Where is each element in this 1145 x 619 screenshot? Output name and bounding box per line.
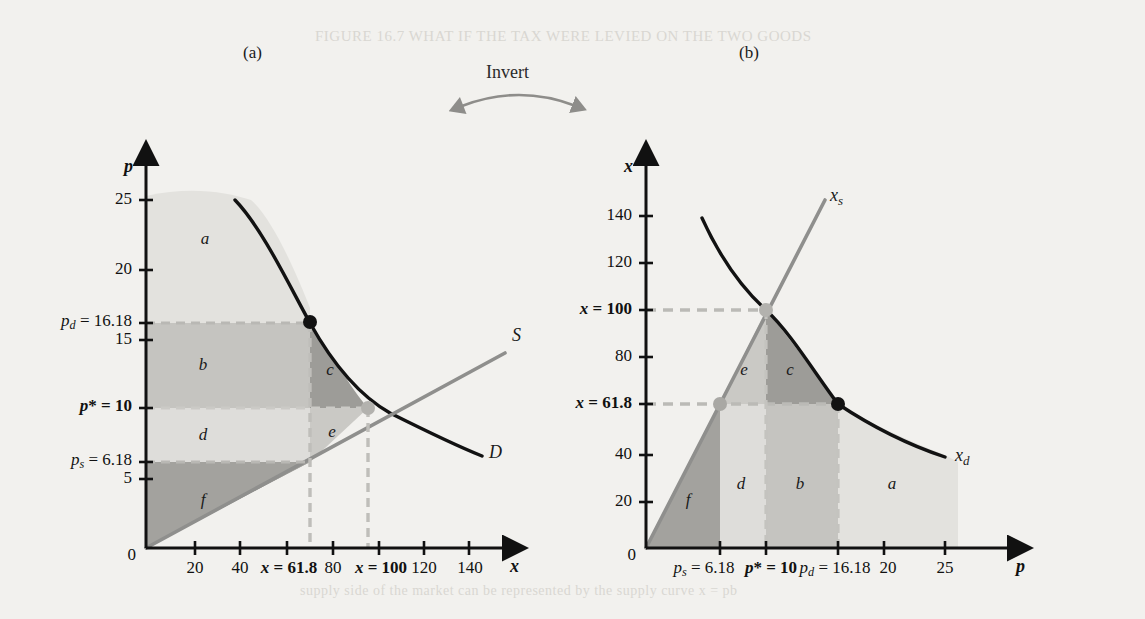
equilibrium-point-a: [361, 401, 375, 415]
demand-point-b: [831, 397, 845, 411]
panel-a-region-c-label: c: [326, 360, 334, 380]
panel-a-xtick-40: 40: [232, 558, 249, 578]
panel-b-xtick-ps: ps = 6.18: [673, 558, 734, 580]
panel-a-region-b-label: b: [199, 355, 208, 375]
panel-a-x-axis-label: x: [510, 556, 519, 577]
panel-b-ytick-0: 0: [628, 545, 637, 565]
panel-b-region-c-label: c: [786, 360, 794, 380]
panel-a-xtick-20: 20: [187, 558, 204, 578]
panel-a-region-a-label: a: [201, 229, 210, 249]
panel-b-ytick-120: 120: [607, 252, 633, 272]
demand-point-a: [303, 315, 317, 329]
panel-a-ytick-20: 20: [115, 259, 132, 279]
panel-b-ytick-80: 80: [615, 346, 632, 366]
region-b-shape-a: [838, 404, 958, 548]
panel-a-xtick-x618: x = 61.8: [261, 558, 317, 578]
panel-b-region-f-label: f: [686, 490, 691, 510]
panel-a-title: (a): [243, 43, 262, 63]
panel-b-title: (b): [739, 43, 759, 63]
panel-a-ytick-5: 5: [124, 468, 133, 488]
supply-point-b: [713, 397, 727, 411]
figure-canvas: [0, 0, 1145, 619]
panel-b-ytick-x100: x = 100: [580, 299, 632, 319]
panel-a-region-d-label: d: [199, 425, 208, 445]
panel-a-xtick-x100: x = 100: [355, 558, 407, 578]
region-a-shape-a: [146, 191, 310, 323]
panel-b-graphics: [639, 163, 1010, 555]
panel-a-ytick-pstar: p* = 10: [80, 396, 132, 416]
panel-a-ytick-0: 0: [128, 545, 137, 565]
panel-b-supply-curve-label: xs: [830, 185, 843, 209]
panel-b-ytick-x618: x = 61.8: [576, 393, 632, 413]
panel-a-region-e-label: e: [328, 422, 336, 442]
panel-a-graphics: [139, 163, 505, 555]
panel-a-xtick-120: 120: [411, 558, 437, 578]
panel-b-x-axis-label: p: [1016, 556, 1025, 577]
panel-b-region-e-label: e: [740, 360, 748, 380]
panel-b-y-axis-label: x: [624, 156, 633, 177]
panel-b-xtick-pd: pd = 16.18: [800, 558, 871, 580]
equilibrium-point-b: [759, 303, 773, 317]
panel-a-region-f-label: f: [201, 490, 206, 510]
panel-b-demand-curve-label: xd: [955, 445, 969, 469]
panel-a-supply-curve-label: S: [512, 325, 521, 346]
panel-b-ytick-20: 20: [615, 491, 632, 511]
panel-b-ytick-140: 140: [607, 205, 633, 225]
panel-a-demand-curve-label: D: [489, 442, 502, 463]
invert-arrow: [462, 95, 576, 106]
panel-a-xtick-140: 140: [457, 558, 483, 578]
invert-label: Invert: [486, 62, 529, 83]
region-a-shape-d: [146, 408, 310, 462]
panel-b-region-a-label: a: [888, 474, 897, 494]
panel-b-xtick-25: 25: [937, 558, 954, 578]
panel-a-xtick-80: 80: [325, 558, 342, 578]
panel-b-region-d-label: d: [737, 474, 746, 494]
panel-b-ytick-40: 40: [615, 444, 632, 464]
region-a-shape-b: [146, 323, 310, 408]
panel-a-ytick-25: 25: [115, 189, 132, 209]
panel-b-xtick-20: 20: [880, 558, 897, 578]
panel-b-xtick-pstar: p* = 10: [745, 558, 797, 578]
panel-a-y-axis-label: p: [124, 156, 133, 177]
panel-a-ytick-15: 15: [115, 329, 132, 349]
panel-b-region-b-label: b: [796, 474, 805, 494]
